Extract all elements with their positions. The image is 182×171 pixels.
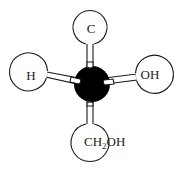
bond-bottom-cap — [87, 102, 93, 106]
atom-left: H — [10, 53, 48, 91]
bond-top-cap — [87, 62, 93, 68]
atom-right: OH — [136, 55, 174, 93]
bond-right-cap — [103, 79, 114, 85]
atom-bottom: CH2OH — [71, 124, 125, 162]
atom-top: C — [73, 10, 107, 44]
atom-label-left: H — [26, 68, 35, 83]
label-ch: CH — [84, 134, 102, 149]
atom-label-top: C — [87, 21, 96, 36]
molecule-diagram: C H OH CH2OH — [0, 0, 182, 171]
label-oh: OH — [107, 134, 126, 149]
atom-label-right: OH — [141, 67, 160, 82]
